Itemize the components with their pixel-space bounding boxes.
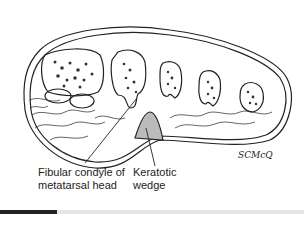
- label-keratotic-wedge: Keratotic wedge: [133, 166, 176, 192]
- outer-skin-contour: [24, 27, 291, 168]
- first-metatarsal-head: [42, 49, 104, 96]
- bottom-bar-dark-segment: [0, 210, 57, 214]
- fourth-metatarsal-head: [199, 71, 221, 106]
- bone-trabecular-speckle: [54, 61, 258, 106]
- keratotic-wedge: [135, 112, 163, 140]
- second-metatarsal-head: [111, 50, 145, 108]
- inner-skin-contour: [30, 32, 286, 162]
- artist-signature: SCMcQ: [238, 150, 273, 160]
- bottom-bar-light-segment: [57, 210, 304, 214]
- third-metatarsal-head: [160, 62, 182, 98]
- label-fibular-condyle: Fibular condyle of metatarsal head: [38, 166, 125, 192]
